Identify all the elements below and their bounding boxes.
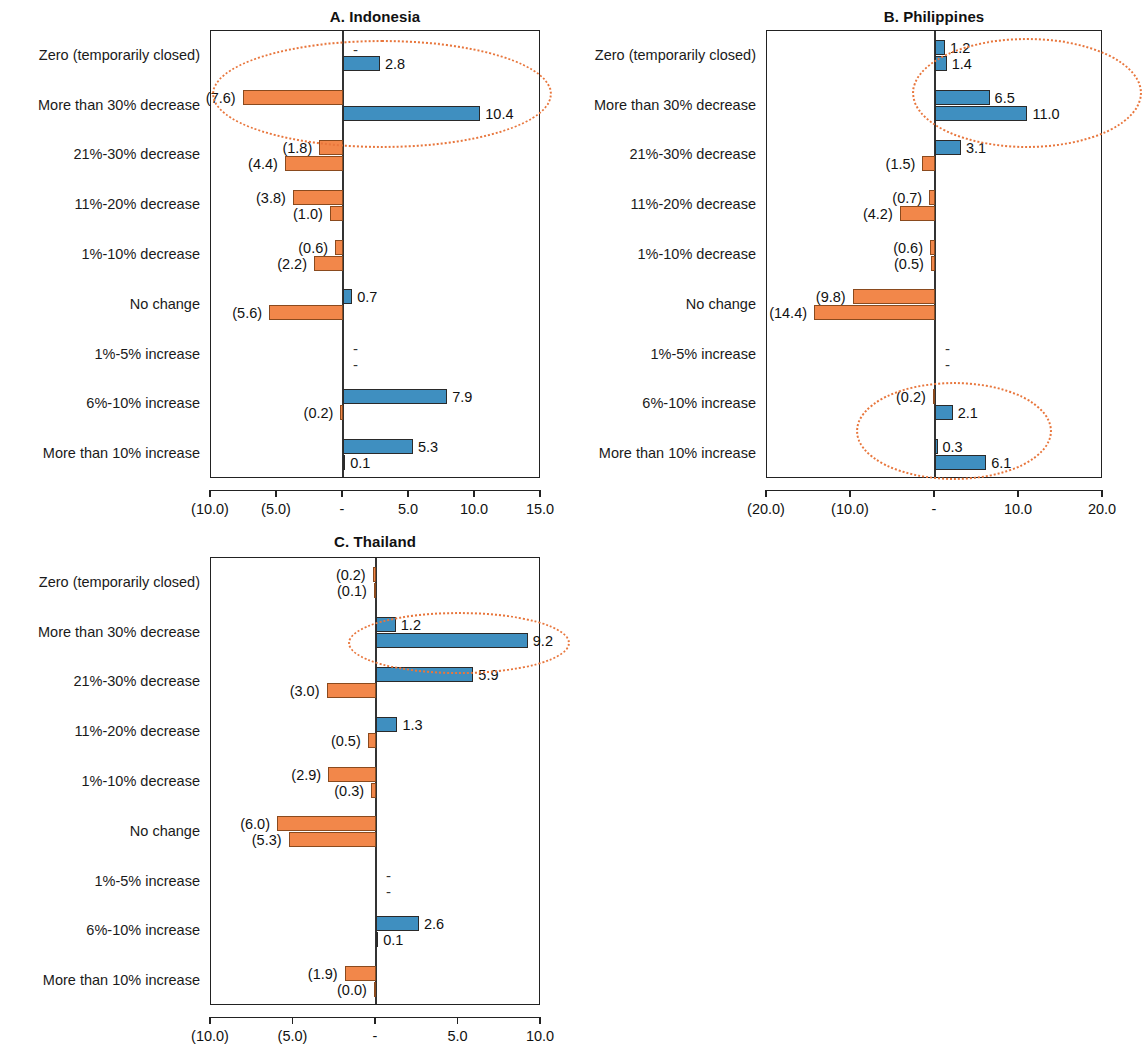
category-label: 6%-10% increase [86, 923, 200, 938]
x-axis-tick-label: 10.0 [526, 1029, 554, 1044]
category-label: 11%-20% decrease [75, 724, 200, 739]
x-axis-tick-label: - [373, 1029, 378, 1044]
bar-value-label: (6.0) [240, 817, 270, 832]
category-label: 1%-5% increase [94, 874, 200, 889]
bar-value-label: 2.6 [424, 917, 444, 932]
bar-value-label: (0.5) [331, 734, 361, 749]
category-label: No change [130, 824, 200, 839]
bar [277, 816, 376, 831]
bar-value-label: (0.2) [336, 568, 366, 583]
bar-value-label: 1.3 [402, 718, 422, 733]
bar [376, 667, 473, 682]
plot-area: (0.2)(0.1)1.29.25.9(3.0)1.3(0.5)(2.9)(0.… [210, 557, 540, 1005]
bar-value-label: (0.1) [337, 584, 367, 599]
bar-value-label: (3.0) [290, 684, 320, 699]
x-axis-tick [374, 1017, 375, 1024]
panel-title: C. Thailand [210, 533, 540, 550]
bar [345, 966, 376, 981]
category-label: Zero (temporarily closed) [39, 575, 200, 590]
category-label: 1%-10% decrease [82, 774, 201, 789]
bar-value-label: (2.9) [291, 768, 321, 783]
bar [376, 916, 419, 931]
bar [374, 583, 376, 598]
bar [376, 617, 396, 632]
x-axis-tick [539, 1017, 540, 1024]
bar [376, 932, 378, 947]
bar [374, 982, 376, 997]
bar [373, 567, 376, 582]
category-label: More than 30% decrease [38, 625, 200, 640]
x-axis-tick-label: 5.0 [447, 1029, 467, 1044]
x-axis-tick [209, 1017, 210, 1024]
bar-value-label: 0.1 [383, 933, 403, 948]
bar [376, 717, 397, 732]
bar [376, 633, 528, 648]
bar-value-label: (0.0) [337, 983, 367, 998]
category-label: More than 10% increase [43, 973, 200, 988]
zero-dash-marker: - [386, 884, 391, 899]
bar [328, 767, 376, 782]
x-axis-tick [292, 1017, 293, 1024]
bar-value-label: (1.9) [308, 967, 338, 982]
bar-value-label: 5.9 [478, 668, 498, 683]
bar-value-label: (0.3) [334, 784, 364, 799]
x-axis-tick-label: (5.0) [278, 1029, 308, 1044]
x-axis-tick-label: (10.0) [191, 1029, 229, 1044]
bar [289, 832, 376, 847]
bar-value-label: (5.3) [252, 833, 282, 848]
bar-value-label: 1.2 [401, 618, 421, 633]
zero-dash-marker: - [386, 868, 391, 883]
bar [371, 783, 376, 798]
bar [368, 733, 376, 748]
bar-value-label: 9.2 [533, 634, 553, 649]
category-label: 21%-30% decrease [73, 674, 200, 689]
x-axis-tick [457, 1017, 458, 1024]
bar [327, 683, 377, 698]
